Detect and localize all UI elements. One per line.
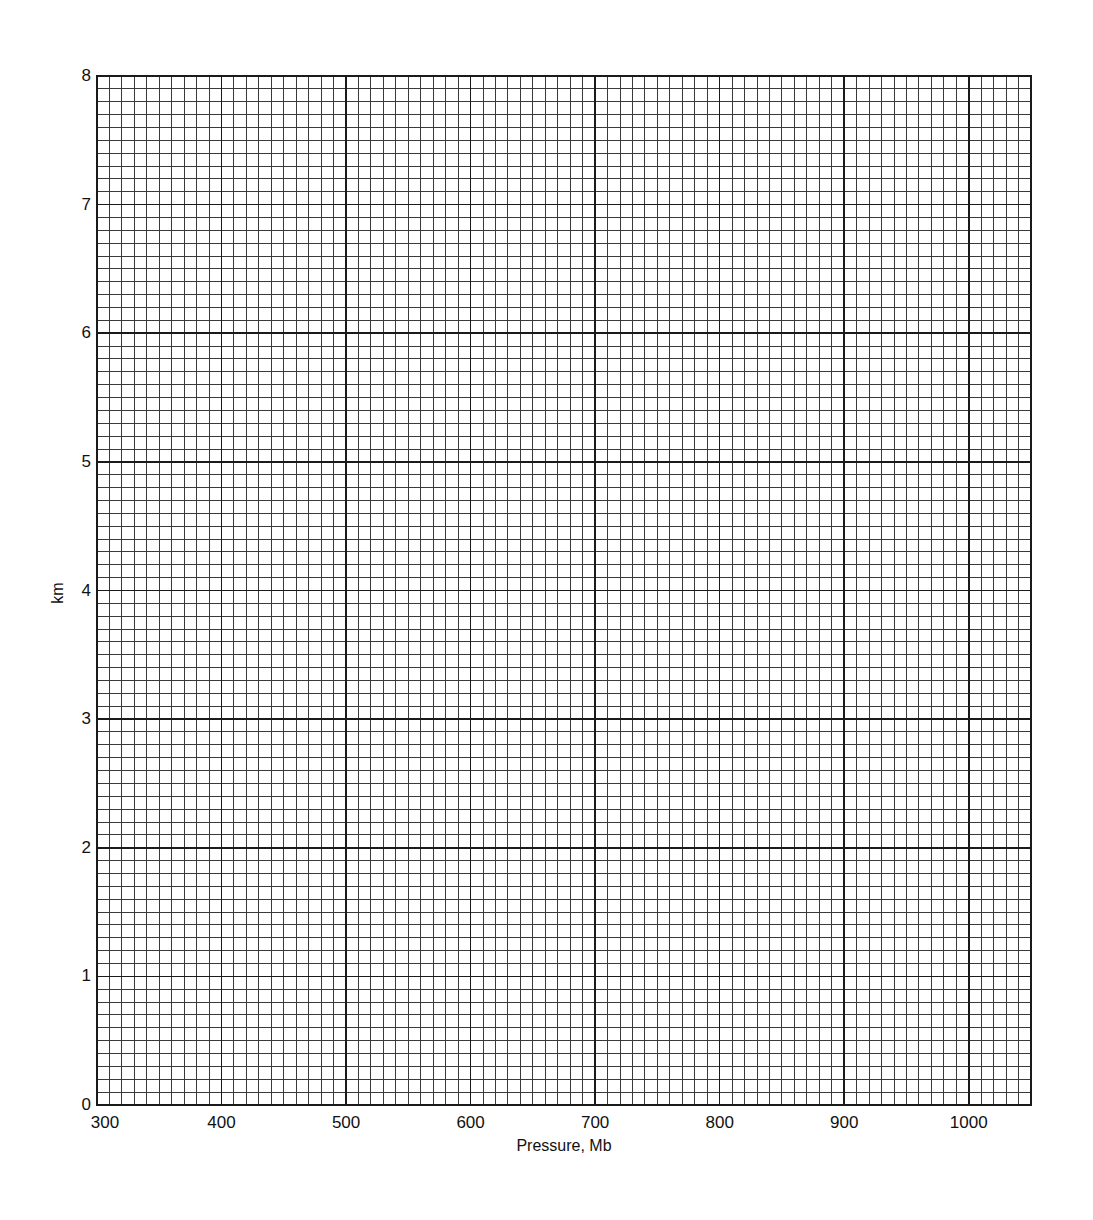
y-tick-label: 8	[61, 67, 91, 84]
y-tick-label: 3	[61, 710, 91, 727]
x-tick-label: 800	[680, 1114, 760, 1131]
y-tick-label: 5	[61, 453, 91, 470]
y-tick-label: 6	[61, 324, 91, 341]
x-tick-label: 500	[306, 1114, 386, 1131]
y-tick-label: 0	[61, 1096, 91, 1113]
y-tick-label: 2	[61, 839, 91, 856]
x-tick-label: 700	[555, 1114, 635, 1131]
x-tick-label: 400	[182, 1114, 262, 1131]
y-tick-label: 1	[61, 967, 91, 984]
graph-paper-grid	[0, 0, 1093, 1220]
y-tick-label: 7	[61, 196, 91, 213]
y-tick-label: 4	[61, 582, 91, 599]
x-tick-label: 600	[431, 1114, 511, 1131]
x-tick-label: 1000	[929, 1114, 1009, 1131]
x-axis-label: Pressure, Mb	[0, 1137, 1093, 1155]
x-tick-label: 900	[804, 1114, 884, 1131]
x-tick-label: 300	[65, 1114, 145, 1131]
